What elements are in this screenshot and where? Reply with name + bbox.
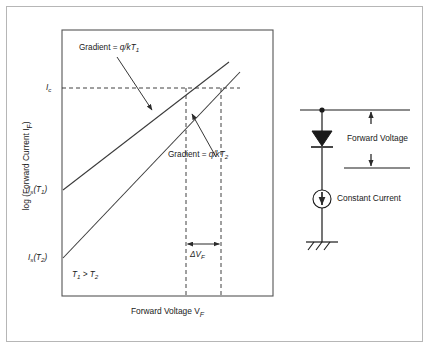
x-axis-title: Forward Voltage VF: [62, 306, 273, 318]
current-source-symbol: [313, 190, 331, 208]
circuit-forward-voltage-label: Forward Voltage: [347, 134, 408, 143]
annotation-gradient-t2: Gradient = q/kT2: [168, 150, 228, 159]
annotation-gradient-t1: Gradient = q/kT1: [79, 43, 139, 52]
circuit-wires: [300, 110, 344, 242]
tick-label-ic: Ic: [46, 83, 51, 92]
annotation-temperature-relation: T1 > T2: [72, 270, 98, 279]
figure-container: log (Forward Current IF) Forward Voltage…: [0, 0, 429, 348]
tick-label-is-t1: Is(T1): [28, 185, 47, 194]
figure-graphics: [0, 0, 429, 348]
plot-axes-box: [62, 30, 273, 296]
diode-symbol: [311, 131, 333, 147]
y-axis-title: log (Forward Current IF): [21, 91, 33, 241]
tick-label-is-t2: Is(T2): [28, 253, 47, 262]
junction-dot: [319, 107, 324, 112]
circuit-constant-current-label: Constant Current: [337, 194, 401, 203]
annotation-delta-vf: ΔVF: [190, 250, 205, 259]
ground-symbol: [306, 242, 338, 250]
